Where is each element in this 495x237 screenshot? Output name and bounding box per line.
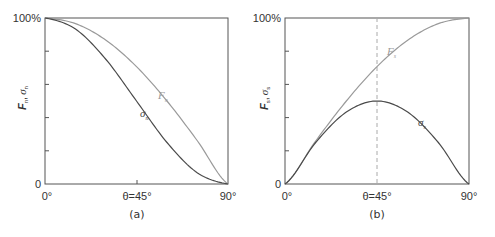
x-mid-label-a: θ=45° (122, 190, 151, 202)
svg-text:Fn,σn: Fn,σn (16, 86, 29, 110)
y-ticks-b (285, 51, 289, 151)
curve-sigma-s (285, 101, 469, 184)
panel-b: 100% 0 0° θ=45° 90° (b) Fs,σs Fs σs (253, 12, 477, 221)
y-top-label-a: 100% (13, 12, 41, 24)
y-ticks-a (45, 51, 49, 151)
x-right-label-a: 90° (220, 190, 237, 202)
y-axis-label-a: Fn,σn (16, 86, 29, 110)
label-fn: Fn (157, 89, 168, 103)
svg-text:Fs,σs: Fs,σs (258, 87, 271, 110)
label-sigma-s: σs (418, 116, 426, 130)
ylabel-sub2: s (265, 87, 271, 90)
x-mid-label-b: θ=45° (362, 190, 391, 202)
y-bottom-label-a: 0 (35, 178, 41, 190)
panel-a: 100% 0 0° θ=45° 90° (a) Fn,σn Fn σn (13, 12, 236, 221)
label-fs: Fs (386, 45, 397, 59)
x-left-label-b: 0° (282, 190, 293, 202)
label-sigma-n: σn (140, 107, 148, 121)
figure: 100% 0 0° θ=45° 90° (a) Fn,σn Fn σn 100%… (0, 0, 495, 237)
caption-b: (b) (369, 208, 385, 221)
y-bottom-label-b: 0 (275, 178, 281, 190)
ylabel-sub2: n (23, 86, 29, 89)
x-left-label-a: 0° (42, 190, 53, 202)
curve-sigma-n (45, 18, 228, 184)
x-right-label-b: 90° (461, 190, 478, 202)
y-axis-label-b: Fs,σs (258, 87, 271, 110)
y-top-label-b: 100% (253, 12, 281, 24)
ylabel-sep: , (258, 97, 270, 100)
caption-a: (a) (129, 208, 144, 221)
ylabel-sep: , (16, 97, 28, 100)
